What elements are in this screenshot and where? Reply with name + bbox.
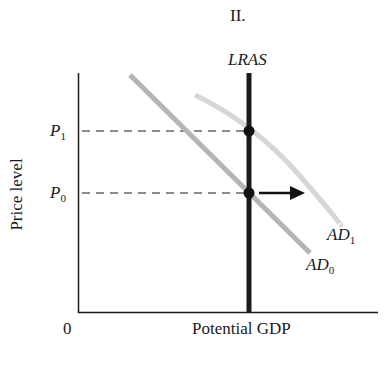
p0-label-sub: 0 [60, 192, 66, 204]
ad1-label-main: AD [327, 225, 350, 244]
p0-label: P0 [50, 184, 66, 204]
p1-label-sub: 1 [60, 130, 66, 142]
chart-title: II. [230, 7, 246, 24]
equilibrium-dot-p1 [244, 126, 255, 137]
ad0-curve [130, 75, 310, 253]
equilibrium-dot-p0 [244, 188, 255, 199]
x-axis-label: Potential GDP [192, 320, 291, 337]
ad0-label-main: AD [306, 255, 329, 274]
p1-label-main: P [50, 121, 60, 140]
p0-label-main: P [50, 183, 60, 202]
y-axis-label: Price level [8, 155, 25, 235]
origin-label: 0 [63, 320, 72, 337]
p1-label: P1 [50, 122, 66, 142]
ad1-label-sub: 1 [350, 234, 356, 246]
lras-label: LRAS [228, 51, 267, 68]
shift-arrow-head [290, 186, 305, 200]
ad0-label: AD0 [306, 256, 334, 276]
ad1-label: AD1 [327, 226, 355, 246]
ad0-label-sub: 0 [329, 264, 335, 276]
